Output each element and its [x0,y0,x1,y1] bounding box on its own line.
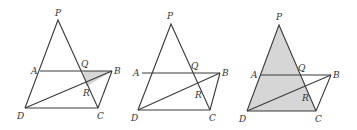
label-b: B [332,70,340,80]
label-r: R [194,90,202,100]
label-b: B [113,66,121,76]
label-c: C [97,111,104,121]
label-p: P [275,12,283,22]
figure-2: P A Q B R D C [130,11,229,123]
figure-3: P A Q B R D C [238,12,340,124]
label-a: A [30,66,38,76]
geometry-figures: P A Q B R D C P A Q B R D C P A Q B R D … [0,0,357,130]
label-q: Q [81,59,89,69]
line-bc [210,73,220,110]
label-a: A [132,68,140,78]
label-d: D [238,114,246,124]
label-p: P [54,8,62,18]
label-c: C [209,113,216,123]
label-r: R [82,88,90,98]
label-q: Q [298,63,306,73]
figure-1: P A Q B R D C [16,8,121,121]
line-db [25,71,112,108]
label-r: R [301,93,309,103]
label-q: Q [191,61,199,71]
label-p: P [166,11,174,21]
label-d: D [130,113,138,123]
label-c: C [315,114,322,124]
label-a: A [250,70,258,80]
label-b: B [221,68,229,78]
label-d: D [16,111,24,121]
